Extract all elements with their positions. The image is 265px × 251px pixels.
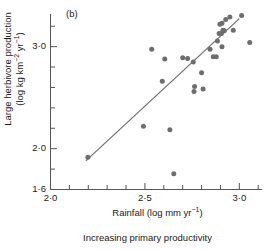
- data-point-group: [85, 13, 252, 176]
- x-tick-label: 2·5: [129, 192, 161, 203]
- x-tick-label: 2·0: [35, 192, 67, 203]
- data-point: [223, 17, 228, 22]
- data-point: [167, 127, 172, 132]
- data-point: [192, 89, 197, 94]
- data-point: [239, 13, 244, 18]
- x-tick-label: 3·0: [223, 192, 255, 203]
- data-point: [85, 155, 90, 160]
- data-point: [162, 56, 167, 61]
- data-point: [208, 47, 213, 52]
- data-point: [219, 44, 224, 49]
- data-point: [217, 31, 222, 36]
- data-point: [141, 124, 146, 129]
- data-point: [247, 40, 252, 45]
- data-point: [185, 56, 190, 61]
- data-point: [199, 70, 204, 75]
- data-point: [160, 79, 165, 84]
- plot-area: [0, 0, 265, 251]
- data-point: [180, 55, 185, 60]
- data-point: [231, 28, 236, 33]
- data-point: [201, 87, 206, 92]
- y-tick-label: 2·0: [20, 142, 46, 153]
- data-point: [149, 47, 154, 52]
- data-point: [222, 28, 227, 33]
- data-point: [192, 84, 197, 89]
- data-point: [215, 39, 220, 44]
- y-tick-label: 3·0: [20, 40, 46, 51]
- data-point: [227, 15, 232, 20]
- data-point: [211, 54, 216, 59]
- data-point: [191, 59, 196, 64]
- scatter-chart-figure: (b) Large herbivore production (log kg k…: [0, 0, 265, 251]
- data-point: [219, 21, 224, 26]
- data-point: [171, 171, 176, 176]
